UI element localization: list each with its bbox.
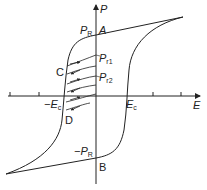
label-ec: Ec — [126, 99, 137, 111]
label-neg-pr-text: −P — [74, 145, 88, 157]
minor-loops — [66, 55, 96, 110]
label-neg-pr-sub: R — [88, 151, 93, 158]
x-axis-label: E — [193, 100, 200, 111]
label-pr1: Pr1 — [99, 53, 113, 65]
label-ec-sub: c — [133, 104, 137, 111]
label-pr-sub: R — [87, 30, 92, 37]
label-neg-pr: −PR — [74, 146, 93, 158]
label-pr1-sub: r1 — [106, 58, 112, 65]
label-neg-ec-text: −E — [44, 98, 58, 110]
label-point-a: A — [99, 25, 106, 36]
label-point-d: D — [65, 115, 73, 126]
label-pr: PR — [80, 25, 92, 37]
label-point-c: C — [56, 67, 64, 78]
label-pr2-sub: r2 — [106, 77, 112, 84]
x-axis — [8, 92, 200, 96]
y-axis-label: P — [100, 4, 107, 15]
label-pr2: Pr2 — [99, 72, 113, 84]
label-point-b: B — [99, 162, 106, 173]
hysteresis-diagram: P E PR A Pr1 Pr2 C −Ec Ec D −PR B — [0, 0, 207, 190]
label-neg-ec-sub: c — [58, 104, 62, 111]
label-neg-ec: −Ec — [44, 99, 61, 111]
